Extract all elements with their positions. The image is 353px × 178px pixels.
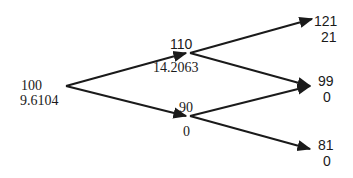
downdown-value: 0 xyxy=(323,154,331,168)
up-price: 110 xyxy=(170,37,192,51)
edge-up-to-upup xyxy=(190,19,312,53)
upup-value: 21 xyxy=(321,30,337,44)
up-value: 14.2063 xyxy=(153,61,199,75)
edge-root-to-down xyxy=(66,86,186,116)
edge-down-to-downdown xyxy=(190,116,310,149)
downdown-price: 81 xyxy=(318,138,334,152)
edge-down-to-updown xyxy=(190,86,310,116)
upup-price: 121 xyxy=(314,14,337,28)
updown-value: 0 xyxy=(323,90,331,104)
down-value: 0 xyxy=(183,125,190,139)
root-price: 100 xyxy=(21,79,42,93)
down-price: 90 xyxy=(179,101,193,115)
updown-price: 99 xyxy=(318,74,334,88)
root-value: 9.6104 xyxy=(20,94,59,108)
binomial-tree-diagram xyxy=(0,0,353,178)
edge-up-to-updown xyxy=(190,53,310,86)
